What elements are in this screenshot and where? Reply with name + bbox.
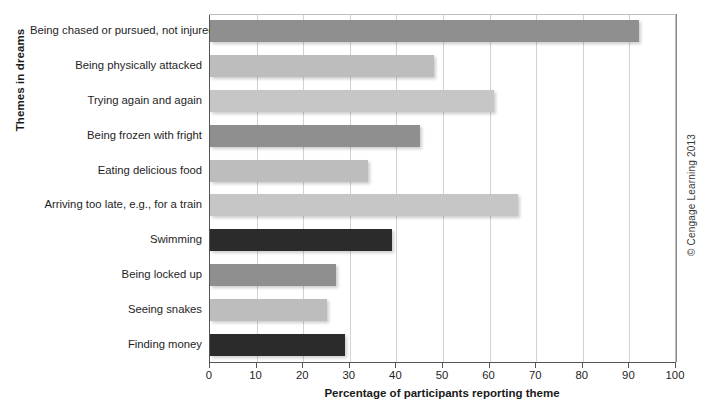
x-tick-70 [535,362,536,368]
bar [210,264,336,286]
x-tick-0 [209,362,210,368]
bar [210,334,345,356]
x-tick-label-80: 80 [562,369,602,381]
bar [210,299,327,321]
gridline-x-80 [583,14,584,362]
category-label: Being locked up [30,269,202,280]
x-tick-40 [395,362,396,368]
bar [210,125,420,147]
gridline-x-70 [536,14,537,362]
bar [210,194,518,216]
category-label: Trying again and again [30,95,202,106]
gridline-x-60 [490,14,491,362]
x-axis-title: Percentage of participants reporting the… [209,387,675,399]
x-tick-label-60: 60 [469,369,509,381]
x-tick-90 [628,362,629,368]
x-tick-label-0: 0 [189,369,229,381]
category-label: Being frozen with fright [30,130,202,141]
x-tick-100 [675,362,676,368]
x-tick-30 [349,362,350,368]
category-label: Arriving too late, e.g., for a train [30,199,202,210]
x-tick-20 [302,362,303,368]
category-label: Being chased or pursued, not injured [30,25,202,36]
category-label-column: Being chased or pursued, not injuredBein… [30,14,202,362]
category-label: Being physically attacked [30,60,202,71]
x-tick-label-40: 40 [375,369,415,381]
y-axis-title: Themes in dreams [14,0,26,160]
category-label: Eating delicious food [30,165,202,176]
x-tick-label-100: 100 [655,369,695,381]
gridline-x-90 [629,14,630,362]
x-tick-60 [489,362,490,368]
x-tick-label-50: 50 [422,369,462,381]
copyright-notice: © Cengage Learning 2013 [686,116,697,256]
x-tick-label-30: 30 [329,369,369,381]
x-tick-label-10: 10 [236,369,276,381]
x-tick-label-20: 20 [282,369,322,381]
category-label: Seeing snakes [30,304,202,315]
bar [210,160,368,182]
x-tick-80 [582,362,583,368]
x-tick-label-70: 70 [515,369,555,381]
plot-area [209,14,676,363]
bar [210,90,494,112]
gridline-x-50 [443,14,444,362]
category-label: Finding money [30,339,202,350]
x-tick-50 [442,362,443,368]
category-label: Swimming [30,234,202,245]
x-tick-label-90: 90 [608,369,648,381]
bar-chart-figure: Themes in dreams Being chased or pursued… [0,0,728,413]
bar [210,20,639,42]
gridline-x-100 [676,14,677,362]
bar [210,229,392,251]
bar [210,55,434,77]
x-tick-10 [256,362,257,368]
